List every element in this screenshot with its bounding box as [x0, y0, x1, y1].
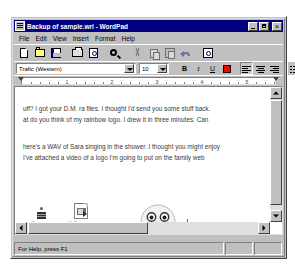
menu-item-insert[interactable]: Insert — [70, 35, 92, 42]
toolbar-separator-3 — [124, 46, 129, 60]
vertical-scrollbar[interactable] — [270, 87, 282, 222]
chevron-down-icon[interactable] — [124, 64, 134, 73]
print-button[interactable] — [70, 46, 85, 60]
new-button[interactable] — [16, 46, 31, 60]
doc-paragraph2-line1: here's a WAV of Sara singing in the show… — [23, 141, 264, 152]
ruler-number-1: 1 — [66, 79, 69, 85]
chevron-down-icon[interactable] — [157, 64, 167, 73]
scroll-up-button[interactable] — [270, 87, 282, 99]
font-size-value: 10 — [140, 66, 157, 72]
sound-wave-icon — [36, 207, 47, 219]
document-text[interactable]: uff? I got your D.M. ra files. I thought… — [23, 103, 264, 163]
bold-button[interactable]: B — [178, 62, 191, 75]
scroll-right-button[interactable] — [258, 222, 270, 234]
align-left-icon — [242, 65, 251, 73]
ruler-right-indent-marker[interactable] — [273, 77, 279, 81]
screenshot-root: Backup of sample.wri - WordPad File Edit… — [0, 0, 295, 274]
doc-blank-line — [23, 125, 264, 141]
status-bar: For Help, press F1 — [14, 242, 283, 255]
date-time-button[interactable] — [200, 46, 215, 60]
date-time-icon — [203, 48, 213, 58]
wordpad-document-icon — [15, 21, 25, 31]
paste-button[interactable] — [162, 46, 177, 60]
wordpad-window: Backup of sample.wri - WordPad File Edit… — [10, 16, 287, 259]
vertical-scroll-thumb[interactable] — [270, 100, 282, 205]
ruler-left-indent-marker[interactable] — [18, 77, 24, 81]
bullets-icon — [290, 65, 295, 73]
format-bar: Trafic (Western) 10 B I U — [14, 61, 283, 75]
align-right-icon — [270, 65, 279, 73]
print-preview-icon — [89, 48, 98, 58]
font-name-combo[interactable]: Trafic (Western) — [16, 63, 136, 74]
printer-icon — [72, 49, 83, 57]
ruler-track: 1 2 3 4 5 — [21, 77, 276, 85]
text-color-icon — [223, 65, 231, 73]
color-button[interactable] — [220, 62, 233, 75]
clipboard-icon — [165, 48, 175, 58]
toolbar-separator-1 — [64, 46, 69, 60]
open-folder-icon — [35, 49, 45, 57]
menu-item-format[interactable]: Format — [92, 35, 119, 42]
toolbar-separator-4 — [194, 46, 199, 60]
bold-icon: B — [182, 65, 187, 72]
window-title: Backup of sample.wri - WordPad — [27, 23, 245, 30]
menu-item-edit[interactable]: Edit — [32, 35, 49, 42]
menu-item-file[interactable]: File — [16, 35, 32, 42]
align-left-button[interactable] — [240, 62, 253, 75]
minimize-button[interactable] — [248, 22, 258, 31]
italic-button[interactable]: I — [192, 62, 205, 75]
align-center-icon — [256, 65, 265, 73]
horizontal-scrollbar[interactable] — [15, 222, 270, 234]
doc-paragraph1-line1: uff? I got your D.M. ra files. I thought… — [23, 103, 264, 114]
underline-button[interactable]: U — [206, 62, 219, 75]
save-button[interactable] — [48, 46, 63, 60]
standard-toolbar — [14, 44, 283, 61]
menu-item-view[interactable]: View — [50, 35, 70, 42]
menu-bar: File Edit View Insert Format Help — [14, 33, 283, 44]
ruler-number-3: 3 — [156, 79, 159, 85]
status-pane-2 — [225, 242, 253, 255]
doc-paragraph1-line2: at do you think of my rainbow logo. I dr… — [23, 114, 264, 125]
format-separator-2 — [234, 62, 239, 76]
align-center-button[interactable] — [254, 62, 267, 75]
menu-item-help[interactable]: Help — [119, 35, 138, 42]
font-size-combo[interactable]: 10 — [139, 63, 169, 74]
maximize-button[interactable] — [259, 22, 269, 31]
align-right-button[interactable] — [268, 62, 281, 75]
window-controls — [248, 22, 282, 31]
ruler-number-4: 4 — [201, 79, 204, 85]
document-area[interactable]: uff? I got your D.M. ra files. I thought… — [14, 86, 283, 235]
undo-button[interactable] — [178, 46, 193, 60]
toolbar-separator-2 — [102, 46, 107, 60]
scroll-down-button[interactable] — [270, 210, 282, 222]
title-bar[interactable]: Backup of sample.wri - WordPad — [14, 20, 283, 32]
format-separator-3 — [282, 62, 287, 76]
ruler-number-2: 2 — [111, 79, 114, 85]
new-document-icon — [20, 48, 28, 58]
print-preview-button[interactable] — [86, 46, 101, 60]
copy-pages-icon — [150, 49, 158, 58]
ruler-number-5: 5 — [246, 79, 249, 85]
status-pane-3 — [254, 242, 282, 255]
floppy-disk-icon — [51, 48, 61, 58]
copy-button[interactable] — [146, 46, 161, 60]
cut-button[interactable] — [130, 46, 145, 60]
undo-arrow-icon — [180, 49, 191, 58]
close-button[interactable] — [272, 22, 282, 31]
font-name-value: Trafic (Western) — [17, 66, 124, 72]
underline-icon: U — [210, 65, 215, 72]
scissors-icon — [133, 48, 143, 58]
bullets-button[interactable] — [288, 62, 295, 75]
status-message: For Help, press F1 — [14, 242, 224, 255]
horizontal-scroll-thumb[interactable] — [28, 222, 148, 234]
open-button[interactable] — [32, 46, 47, 60]
find-button[interactable] — [108, 46, 123, 60]
ruler[interactable]: 1 2 3 4 5 — [14, 75, 283, 86]
italic-icon: I — [197, 65, 199, 73]
ruler-ticks: 1 2 3 4 5 — [22, 78, 275, 84]
scroll-left-button[interactable] — [15, 222, 27, 234]
format-separator-1 — [172, 62, 177, 76]
doc-paragraph2-line2: I've attached a video of a logo I'm goin… — [23, 152, 264, 163]
binoculars-icon — [110, 48, 121, 58]
avi-file-icon — [74, 203, 88, 219]
